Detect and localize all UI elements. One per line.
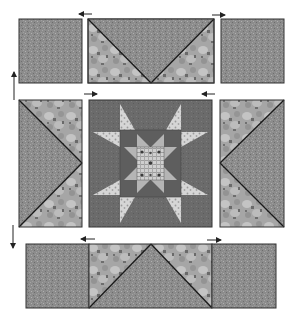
flying-geese-top [88, 19, 214, 83]
flying-geese-right [220, 100, 284, 227]
quilt-assembly-diagram [0, 0, 299, 314]
corner-square-bottom-left [26, 244, 89, 308]
corner-square-top-right [221, 19, 284, 83]
flying-geese-bottom [89, 244, 212, 308]
top-row [19, 14, 284, 83]
flying-geese-left [19, 100, 82, 227]
corner-square-top-left [19, 19, 82, 83]
bottom-row [26, 239, 276, 308]
corner-square-bottom-right [212, 244, 276, 308]
middle-row [19, 94, 284, 227]
center-star-block [89, 100, 212, 227]
